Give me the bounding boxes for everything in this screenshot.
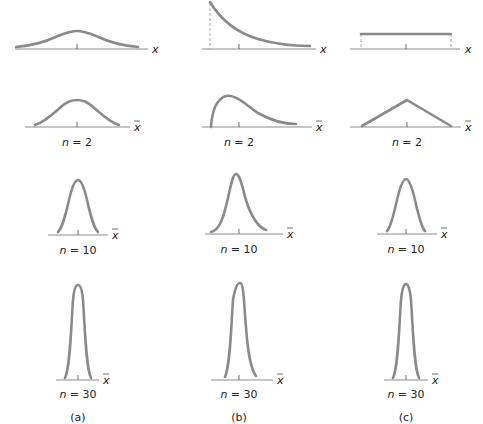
panel-a-population: x <box>15 31 159 56</box>
panel-b-n2: x n = 2 <box>202 96 323 149</box>
sample-size-label: n = 30 <box>220 388 257 401</box>
sample-size-label: n = 10 <box>59 244 96 257</box>
axis-label-xbar: x <box>464 121 472 134</box>
sampling-distribution-figure: x x x x n = 2 x n = 2 x n <box>0 0 483 424</box>
sampling-curve-n2 <box>211 96 296 127</box>
axis-label-xbar: x <box>286 228 294 241</box>
column-caption-b: (b) <box>231 411 247 424</box>
panel-c-n10: x n = 10 <box>377 179 448 256</box>
exponential-population-curve <box>210 2 310 46</box>
column-caption-c: (c) <box>399 411 414 424</box>
axis-label-x: x <box>464 43 472 56</box>
panel-a-n30: x n = 30 (a) <box>56 285 110 424</box>
axis-label-xbar: x <box>440 228 448 241</box>
panel-b-n30: x n = 30 (b) <box>211 283 284 424</box>
axis-label-x: x <box>319 43 327 56</box>
sample-size-label: n = 30 <box>59 388 96 401</box>
panel-b-n10: x n = 10 <box>205 174 294 256</box>
axis-label-xbar: x <box>315 121 323 134</box>
axis-label-xbar: x <box>111 229 119 242</box>
sample-size-label: n = 2 <box>392 136 422 149</box>
sample-size-label: n = 2 <box>224 136 254 149</box>
panel-a-n2: x n = 2 <box>25 100 141 149</box>
axis-label-x: x <box>151 43 159 56</box>
sample-size-label: n = 10 <box>387 243 424 256</box>
sampling-curve-n10 <box>211 174 266 232</box>
panel-c-population: x <box>350 34 472 56</box>
sampling-curve-n30 <box>393 284 419 378</box>
sampling-curve-n30 <box>225 283 256 377</box>
sample-size-label: n = 10 <box>220 243 257 256</box>
sample-size-label: n = 2 <box>62 136 92 149</box>
column-caption-a: (a) <box>70 411 85 424</box>
panel-c-n30: x n = 30 (c) <box>384 284 439 424</box>
sampling-curve-n10 <box>387 179 425 231</box>
sampling-curve-n2 <box>35 100 119 125</box>
panel-b-population: x <box>202 2 327 56</box>
axis-label-xbar: x <box>276 374 284 387</box>
panel-c-n2: x n = 2 <box>350 100 472 149</box>
sampling-curve-n10 <box>58 180 98 232</box>
axis-label-xbar: x <box>102 374 110 387</box>
axis-label-xbar: x <box>133 121 141 134</box>
panel-a-n10: x n = 10 <box>48 180 119 257</box>
sample-size-label: n = 30 <box>387 388 424 401</box>
sampling-curve-n30 <box>65 285 91 378</box>
axis-label-xbar: x <box>431 374 439 387</box>
